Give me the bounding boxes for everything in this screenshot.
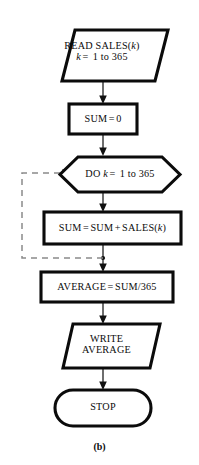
node-read-shape <box>62 30 168 81</box>
node-write-shape <box>63 324 160 368</box>
edge-read-to-init <box>99 82 107 104</box>
node-accumulate-shape <box>44 212 181 244</box>
node-average-shape <box>41 272 173 302</box>
edge-write-to-stop <box>99 368 107 390</box>
node-stop-shape <box>55 390 151 426</box>
edge-loop-to-accumulate <box>99 192 107 212</box>
node-init-shape <box>69 104 137 134</box>
edge-init-to-loop <box>99 134 107 156</box>
figure-caption: (b) <box>0 441 199 452</box>
edge-average-to-write <box>99 302 107 324</box>
node-loop-shape <box>60 157 180 192</box>
flowchart-diagram <box>0 0 199 465</box>
